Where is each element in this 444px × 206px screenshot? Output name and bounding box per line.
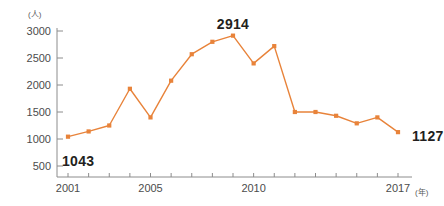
data-point-label: 1127 [412,128,444,144]
data-point-marker [355,121,359,125]
series-line [68,36,398,137]
data-point-marker [148,115,152,119]
data-point-marker [396,130,400,134]
data-point-marker [252,61,256,65]
data-point-marker [128,87,132,91]
series-markers [66,34,400,139]
data-point-marker [272,44,276,48]
data-point-marker [231,34,235,38]
data-point-marker [313,110,317,114]
x-axis-ticks [68,173,398,177]
data-point-marker [169,79,173,83]
data-point-marker [190,52,194,56]
data-point-marker [334,114,338,118]
data-point-marker [210,40,214,44]
data-point-marker [107,123,111,127]
data-point-label: 2914 [217,16,249,32]
data-point-marker [293,110,297,114]
data-point-marker [87,129,91,133]
data-point-marker [375,115,379,119]
data-point-marker [66,135,70,139]
data-point-label: 1043 [62,153,94,169]
y-axis-ticks [57,31,63,166]
axis-lines [57,28,412,177]
